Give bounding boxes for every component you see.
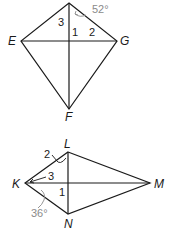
vertex-label-n: N (64, 217, 73, 231)
vertex-label-k: K (12, 177, 21, 191)
angle-label-3-bottom: 3 (48, 170, 54, 182)
angle-arrow-52 (75, 11, 78, 15)
angle-label-3: 3 (58, 16, 64, 28)
vertex-label-f: F (65, 110, 73, 124)
vertex-label-g: G (120, 34, 129, 48)
angle-label-2-bottom: 2 (44, 148, 50, 160)
given-angle-52: 52° (92, 3, 109, 15)
angle-label-1: 1 (72, 26, 78, 38)
kite-efg: E G F 3 1 2 52° (8, 3, 129, 124)
angle-label-2: 2 (89, 26, 95, 38)
kite-klmn: L K M N 2 3 1 36° (12, 137, 164, 231)
vertex-label-e: E (8, 34, 17, 48)
diagram-canvas: E G F 3 1 2 52° L K M N 2 3 1 36° (0, 0, 179, 240)
angle-pointer-2 (52, 155, 57, 161)
vertex-label-m: M (154, 177, 164, 191)
given-angle-36: 36° (31, 207, 48, 219)
vertex-label-l: L (64, 137, 71, 151)
angle-label-1-bottom: 1 (59, 186, 65, 198)
